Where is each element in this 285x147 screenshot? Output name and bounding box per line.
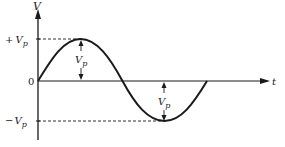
- arrow-down-icon: [79, 74, 84, 80]
- origin-label: 0: [28, 76, 34, 87]
- lower-amplitude-arrow: Vp: [158, 82, 170, 121]
- arrow-up-icon: [79, 40, 84, 46]
- x-axis-label: t: [272, 76, 277, 87]
- x-axis: t: [38, 76, 277, 87]
- upper-amplitude-arrow: Vp: [75, 40, 87, 80]
- y-axis-label: V: [33, 0, 42, 13]
- x-axis-arrow-icon: [260, 78, 270, 84]
- negative-peak-label: −Vp: [5, 115, 27, 129]
- upper-amplitude-label: Vp: [75, 54, 87, 68]
- sine-curve: [38, 39, 207, 121]
- lower-amplitude-label: Vp: [158, 96, 170, 110]
- sine-wave-diagram: V t 0 +Vp −Vp Vp Vp: [0, 0, 285, 147]
- y-axis: V: [33, 0, 42, 140]
- arrow-up-icon: [162, 82, 167, 88]
- positive-peak-label: +Vp: [5, 34, 28, 48]
